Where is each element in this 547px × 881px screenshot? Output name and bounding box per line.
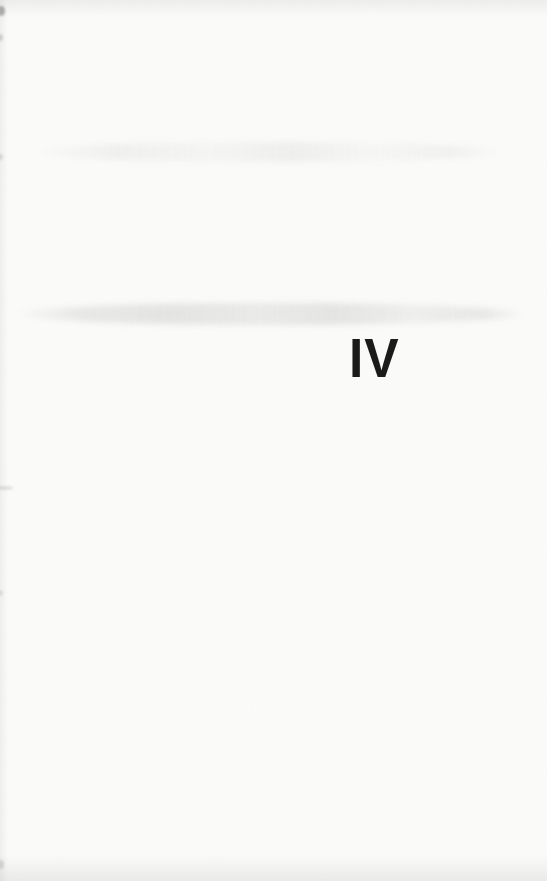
page-edge-speck	[0, 590, 3, 596]
show-through-smudge-mid	[18, 303, 525, 325]
page-edge-speck	[0, 6, 5, 16]
scan-edge-shading-left	[0, 0, 8, 881]
page-edge-speck	[0, 154, 3, 160]
page-edge-speck	[0, 34, 3, 41]
show-through-smudge-upper	[30, 142, 507, 162]
page-edge-speck	[0, 860, 4, 869]
book-page: IV	[0, 0, 547, 881]
paper-grain-texture	[0, 0, 547, 881]
scan-edge-shading-top	[0, 0, 547, 16]
part-number-heading: IV	[349, 330, 400, 386]
page-edge-speck	[0, 486, 13, 490]
scan-edge-shading-bottom	[0, 855, 547, 881]
